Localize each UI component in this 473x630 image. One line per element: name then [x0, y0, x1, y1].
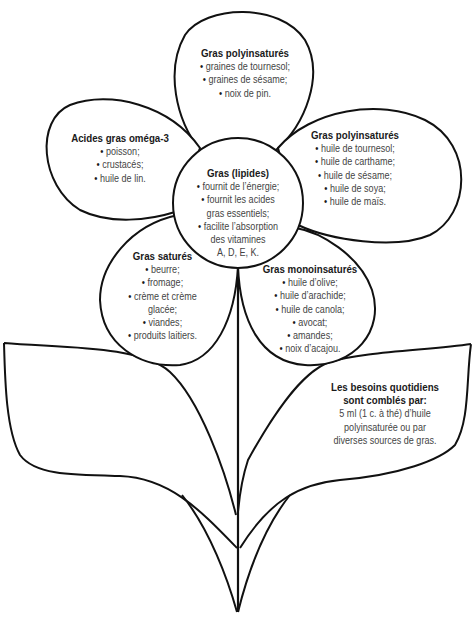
leaf-right-line: diverses sources de gras.	[325, 434, 445, 447]
petal-top-title: Gras polyinsaturés	[181, 47, 310, 60]
leaf-left-sweep	[182, 495, 237, 612]
petal-bottom-left-title: Gras saturés	[109, 250, 217, 263]
petal-bottom-right-item: avocat;	[258, 316, 361, 329]
petal-bottom-right-item: noix d’acajou.	[258, 342, 361, 355]
petal-right-title: Gras polyinsaturés	[299, 129, 411, 142]
petal-left-title: Acides gras oméga-3	[56, 132, 185, 145]
center-text: Gras (lipides) fournit de l’énergie; fou…	[182, 167, 294, 259]
center-line: fournit de l’énergie;	[182, 180, 294, 193]
petal-bottom-left-line: produits laitiers.	[109, 329, 217, 342]
center-title: Gras (lipides)	[182, 167, 294, 180]
petal-left-item: poisson;	[56, 145, 185, 158]
petal-left-item: huile de lin.	[56, 172, 185, 185]
petal-top-item: noix de pin.	[181, 87, 310, 100]
petal-left-item: crustacés;	[56, 158, 185, 171]
petal-left-text: Acides gras oméga-3 poisson; crustacés; …	[56, 132, 185, 185]
petal-top-item: graines de sésame;	[181, 73, 310, 86]
petal-right-item: huile de carthame;	[299, 155, 411, 168]
petal-bottom-left-line: crème et crème	[109, 290, 217, 303]
center-line: fournit les acides	[182, 193, 294, 206]
petal-top-item: graines de tournesol;	[181, 60, 310, 73]
petal-right-item: huile de sésame;	[299, 169, 411, 182]
leaf-right-sweep	[238, 495, 290, 612]
petal-bottom-right-title: Gras monoinsaturés	[258, 263, 361, 276]
petal-bottom-right-item: amandes;	[258, 329, 361, 342]
petal-bottom-right-item: huile d’olive;	[258, 276, 361, 289]
leaf-right-line: polyinsaturée ou par	[325, 421, 445, 434]
leaf-left	[4, 343, 237, 548]
center-line: gras essentiels;	[182, 207, 294, 220]
leaf-right-title: sont comblés par:	[325, 394, 445, 407]
petal-bottom-left-line: glacée;	[109, 303, 217, 316]
petal-bottom-left-line: fromage;	[109, 276, 217, 289]
petal-right-item: huile de maïs.	[299, 195, 411, 208]
petal-top-text: Gras polyinsaturés graines de tournesol;…	[181, 47, 310, 100]
petal-bottom-left-line: beurre;	[109, 263, 217, 276]
petal-bottom-right-item: huile de canola;	[258, 303, 361, 316]
center-line: facilite l’absorption	[182, 220, 294, 233]
petal-right-text: Gras polyinsaturés huile de tournesol; h…	[299, 129, 411, 208]
petal-bottom-right-item: huile d’arachide;	[258, 289, 361, 302]
petal-bottom-right-text: Gras monoinsaturés huile d’olive; huile …	[258, 263, 361, 355]
petal-bottom-left-line: viandes;	[109, 316, 217, 329]
petal-right-item: huile de soya;	[299, 182, 411, 195]
leaf-right-line: 5 ml (1 c. à thé) d’huile	[325, 407, 445, 420]
petal-right-item: huile de tournesol;	[299, 142, 411, 155]
leaf-right-title: Les besoins quotidiens	[325, 381, 445, 394]
leaf-right-text: Les besoins quotidiens sont comblés par:…	[325, 381, 445, 447]
center-line: des vitamines	[182, 233, 294, 246]
petal-bottom-left-text: Gras saturés beurre; fromage; crème et c…	[109, 250, 217, 342]
